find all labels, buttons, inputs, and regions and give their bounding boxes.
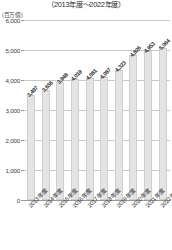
y-axis-tick-label: 3,000 [0, 107, 20, 114]
y-axis-tick-label: 6,000 [0, 17, 20, 24]
bar-slot [53, 20, 68, 200]
y-axis-tick-label: 4,000 [0, 77, 20, 84]
bar-slot [97, 20, 112, 200]
bar-slot [82, 20, 97, 200]
x-axis-labels: 2013年度2014年度2015年度2016年度2017年度2018年度2019… [24, 201, 170, 250]
bar-slot [68, 20, 83, 200]
bar [56, 82, 64, 200]
bar-slot [24, 20, 39, 200]
y-axis-tick-label: 0 [0, 197, 20, 204]
bar [159, 48, 167, 200]
bar [86, 78, 94, 200]
bar [115, 70, 123, 200]
bar-slot [112, 20, 127, 200]
chart-subtitle: （2013年度～2022年度） [0, 0, 172, 9]
y-axis-tick-label: 1,000 [0, 167, 20, 174]
bar [144, 51, 152, 200]
bar-slot [39, 20, 54, 200]
bar [71, 79, 79, 200]
plot-area: 01,0002,0003,0004,0005,0006,000 3,4973,6… [24, 20, 170, 200]
bar-chart: （2013年度～2022年度） (百万個) 01,0002,0003,0004,… [0, 0, 172, 250]
y-axis-tick-label: 2,000 [0, 137, 20, 144]
bar [27, 95, 35, 200]
bar [129, 55, 137, 200]
y-axis-tick-label: 5,000 [0, 47, 20, 54]
bar [100, 77, 108, 200]
bar [42, 90, 50, 200]
